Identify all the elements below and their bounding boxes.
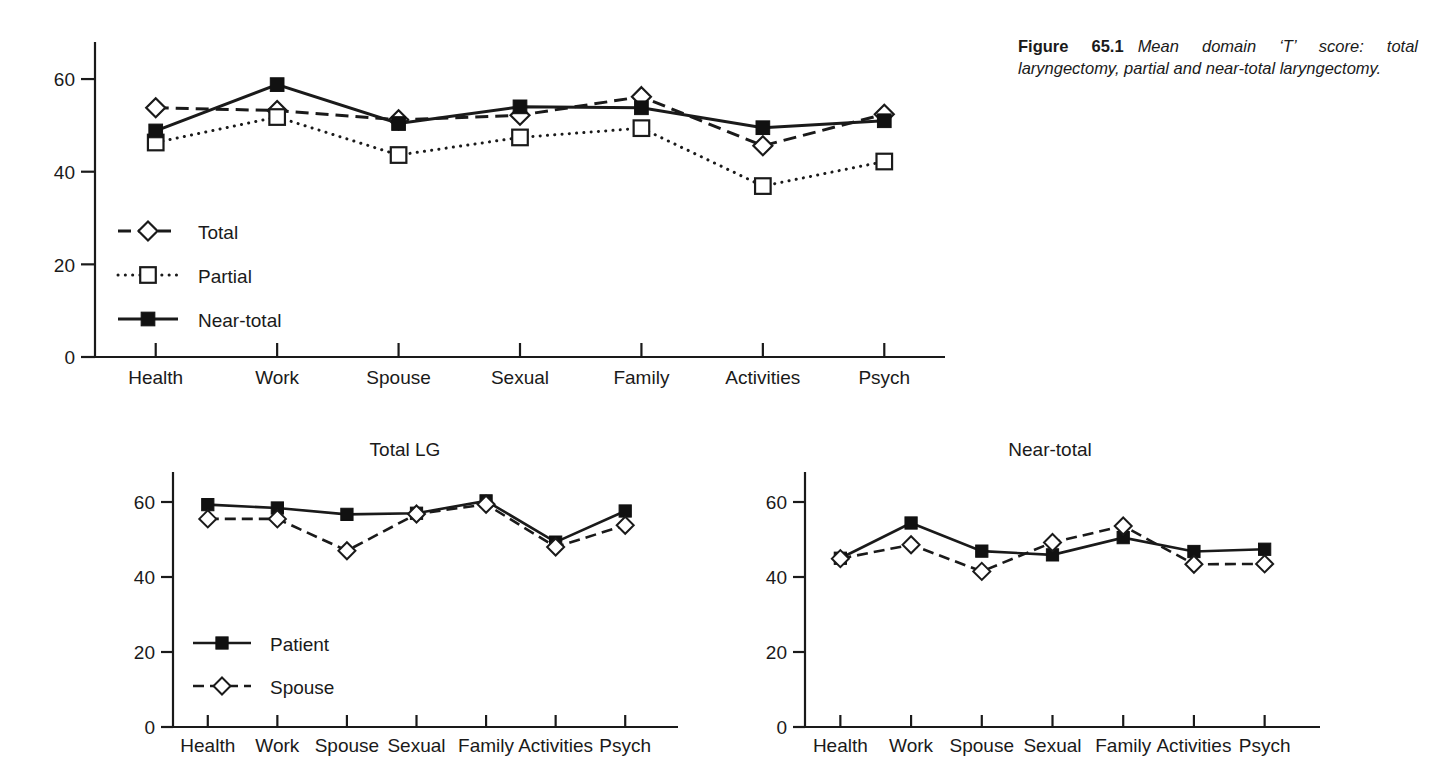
x-axis-label-psych: Psych [599, 735, 651, 756]
y-tick-label: 0 [144, 717, 155, 738]
chart-total-lg-canvas: 0204060HealthWorkSpouseSexualFamilyActiv… [60, 430, 720, 769]
legend-label: Spouse [270, 677, 334, 698]
series-spouse [199, 496, 633, 560]
data-point-marker [877, 114, 891, 128]
y-tick-label: 60 [134, 492, 155, 513]
legend-item-near-total[interactable]: Near-total [118, 310, 281, 331]
y-tick-label: 60 [766, 492, 787, 513]
y-tick-label: 40 [134, 567, 155, 588]
data-point-marker [973, 563, 990, 580]
chart-main: 0204060HealthWorkSpouseSexualFamilyActiv… [0, 0, 1000, 400]
x-axis-label-activities: Activities [725, 367, 800, 388]
data-point-marker [513, 100, 527, 114]
chart-title: Near-total [1008, 439, 1091, 460]
data-point-marker [341, 508, 353, 520]
legend-item-patient[interactable]: Patient [193, 634, 330, 655]
data-point-marker [216, 637, 228, 649]
legend-item-total[interactable]: Total [118, 222, 238, 243]
data-point-marker [876, 154, 892, 170]
x-axis-label-psych: Psych [858, 367, 910, 388]
legend-label: Partial [198, 266, 252, 287]
data-point-marker [392, 117, 406, 131]
data-point-marker [512, 130, 528, 146]
data-point-marker [338, 542, 355, 559]
series-spouse [832, 518, 1273, 580]
x-axis-label-work: Work [889, 735, 933, 756]
data-point-marker [634, 120, 650, 136]
y-tick-label: 40 [54, 162, 75, 183]
data-point-marker [1256, 555, 1273, 572]
data-point-marker [141, 312, 155, 326]
data-point-marker [146, 98, 165, 117]
data-point-marker [199, 510, 216, 527]
y-tick-label: 60 [54, 69, 75, 90]
figure-caption: Figure 65.1Mean domain ‘T’ score: total … [1018, 36, 1418, 80]
chart-main-canvas: 0204060HealthWorkSpouseSexualFamilyActiv… [0, 0, 1000, 400]
data-point-marker [149, 124, 163, 138]
data-point-marker [753, 136, 772, 155]
x-axis-label-work: Work [255, 735, 299, 756]
data-point-marker [903, 536, 920, 553]
data-point-marker [755, 178, 771, 194]
data-point-marker [140, 267, 156, 283]
x-axis-label-family: Family [458, 735, 514, 756]
x-axis-label-work: Work [255, 367, 299, 388]
data-point-marker [756, 121, 770, 135]
data-point-marker [139, 222, 158, 241]
x-axis-label-spouse: Spouse [366, 367, 430, 388]
chart-near-total: 0204060HealthWorkSpouseSexualFamilyActiv… [700, 430, 1380, 769]
y-tick-label: 0 [64, 347, 75, 368]
data-point-marker [214, 678, 231, 695]
x-axis-label-activities: Activities [1156, 735, 1231, 756]
x-axis-label-psych: Psych [1239, 735, 1291, 756]
x-axis-label-sexual: Sexual [387, 735, 445, 756]
data-point-marker [1185, 556, 1202, 573]
x-axis-label-spouse: Spouse [950, 735, 1014, 756]
y-tick-label: 20 [766, 642, 787, 663]
figure-caption-label: Figure 65.1 [1018, 37, 1124, 55]
y-tick-label: 20 [54, 255, 75, 276]
x-axis-label-spouse: Spouse [315, 735, 379, 756]
y-tick-label: 40 [766, 567, 787, 588]
x-axis-label-health: Health [180, 735, 235, 756]
data-point-marker [1259, 543, 1271, 555]
data-point-marker [976, 545, 988, 557]
data-point-marker [202, 499, 214, 511]
legend-label: Patient [270, 634, 330, 655]
chart-near-total-canvas: 0204060HealthWorkSpouseSexualFamilyActiv… [700, 430, 1380, 769]
x-axis-label-health: Health [128, 367, 183, 388]
data-point-marker [905, 517, 917, 529]
y-tick-label: 0 [776, 717, 787, 738]
chart-total-lg: 0204060HealthWorkSpouseSexualFamilyActiv… [60, 430, 720, 769]
figure-page: Figure 65.1Mean domain ‘T’ score: total … [0, 0, 1431, 769]
x-axis-label-family: Family [1095, 735, 1151, 756]
legend-item-partial[interactable]: Partial [118, 266, 252, 287]
data-point-marker [269, 109, 285, 125]
x-axis-label-sexual: Sexual [491, 367, 549, 388]
data-point-marker [619, 505, 631, 517]
chart-title: Total LG [370, 439, 441, 460]
legend-label: Total [198, 222, 238, 243]
y-tick-label: 20 [134, 642, 155, 663]
x-axis-label-family: Family [613, 367, 669, 388]
x-axis-label-health: Health [813, 735, 868, 756]
legend-label: Near-total [198, 310, 281, 331]
data-point-marker [635, 101, 649, 115]
data-point-marker [270, 78, 284, 92]
legend-item-spouse[interactable]: Spouse [193, 677, 334, 698]
x-axis-label-activities: Activities [518, 735, 593, 756]
data-point-marker [391, 147, 407, 163]
x-axis-label-sexual: Sexual [1023, 735, 1081, 756]
data-point-marker [617, 517, 634, 534]
